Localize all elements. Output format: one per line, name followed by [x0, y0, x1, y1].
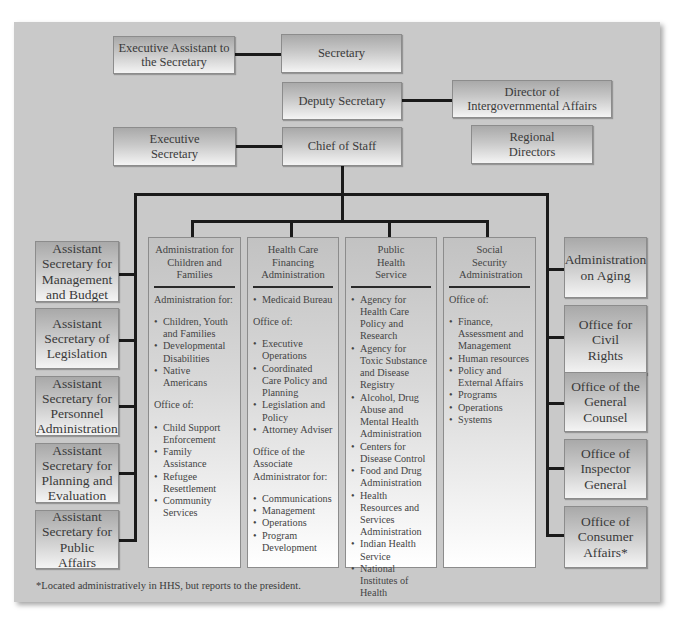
section-heading: Office of:	[154, 399, 235, 411]
list-item: Community Services	[154, 495, 235, 519]
executive-assistant-box: Executive Assistant to the Secretary	[113, 36, 235, 74]
connector-line	[191, 220, 194, 237]
list-item: Food and Drug Administration	[351, 465, 431, 489]
right-office-box: Office of the General Counsel	[564, 372, 647, 432]
list-item: Coordinated Care Policy and Planning	[253, 363, 333, 400]
list-item: Programs	[449, 389, 530, 401]
division-column-acf: Administration for Children and Families…	[148, 237, 241, 568]
list-item: Family Assistance	[154, 446, 235, 470]
list-item: Human resources	[449, 353, 530, 365]
connector-line	[235, 53, 281, 56]
list-item: Policy and External Affairs	[449, 365, 530, 389]
connector-line	[119, 405, 135, 408]
list-item: Management	[253, 505, 333, 517]
connector-line	[402, 99, 452, 102]
list-item: Alcohol, Drug Abuse and Mental Health Ad…	[351, 392, 431, 441]
item-list: Finance, Assessment and Management Human…	[449, 316, 530, 426]
connector-line	[546, 467, 564, 470]
connector-line	[546, 193, 549, 536]
connector-line	[134, 193, 137, 542]
connector-line	[134, 193, 549, 196]
connector-line	[236, 145, 282, 148]
deputy-secretary-box: Deputy Secretary	[282, 82, 402, 120]
list-item: Children, Youth and Families	[154, 316, 235, 340]
executive-secretary-box: Executive Secretary	[113, 127, 236, 166]
left-office-box: Assistant Secretary of Legislation	[35, 308, 119, 369]
item-list: Executive Operations Coordinated Care Po…	[253, 338, 333, 436]
connector-line	[486, 220, 489, 237]
division-title: Health Care Financing Administration	[253, 242, 333, 288]
left-office-box: Assistant Secretary for Personnel Admini…	[35, 376, 119, 436]
right-office-box: Office of Inspector General	[564, 439, 647, 499]
right-office-box: Office of Consumer Affairs*	[564, 506, 647, 568]
connector-line	[119, 273, 135, 276]
list-item: Operations	[253, 517, 333, 529]
item-list: Medicaid Bureau	[253, 294, 333, 306]
division-column-hcfa: Health Care Financing Administration Med…	[247, 237, 339, 568]
secretary-box: Secretary	[281, 34, 402, 73]
connector-line	[388, 220, 391, 237]
left-office-box: Assistant Secretary for Planning and Eva…	[35, 443, 119, 503]
list-item: Native Americans	[154, 365, 235, 389]
list-item: Systems	[449, 414, 530, 426]
connector-line	[191, 220, 489, 223]
list-item: Centers for Disease Control	[351, 441, 431, 465]
connector-line	[546, 402, 564, 405]
connector-line	[546, 268, 564, 271]
left-office-box: Assistant Secretary for Public Affairs	[35, 510, 119, 569]
division-title: Administration for Children and Families	[154, 242, 235, 288]
director-intergovernmental-box: Director of Intergovernmental Affairs	[452, 80, 612, 118]
list-item: Finance, Assessment and Management	[449, 316, 530, 353]
list-item: Program Development	[253, 530, 333, 554]
item-list: Child Support Enforcement Family Assista…	[154, 422, 235, 520]
item-list: Agency for Health Care Policy and Resear…	[351, 294, 431, 600]
left-office-box: Assistant Secretary for Management and B…	[35, 241, 119, 302]
regional-directors-box: Regional Directors	[471, 125, 593, 164]
connector-line	[546, 534, 564, 537]
list-item: Child Support Enforcement	[154, 422, 235, 446]
division-title: Social Security Administration	[449, 242, 530, 288]
list-item: National Institutes of Health	[351, 563, 431, 600]
list-item: Operations	[449, 402, 530, 414]
division-column-ssa: Social Security Administration Office of…	[443, 237, 536, 568]
connector-line	[119, 539, 135, 542]
right-office-box: Office for Civil Rights	[564, 305, 647, 375]
footnote: *Located administratively in HHS, but re…	[36, 580, 301, 591]
list-item: Indian Health Service	[351, 538, 431, 562]
list-item: Attorney Adviser	[253, 424, 333, 436]
list-item: Developmental Disabilities	[154, 340, 235, 364]
list-item: Medicaid Bureau	[253, 294, 333, 306]
list-item: Health Resources and Services Administra…	[351, 490, 431, 539]
division-column-phs: Public Health Service Agency for Health …	[345, 237, 437, 568]
item-list: Communications Management Operations Pro…	[253, 493, 333, 554]
division-title: Public Health Service	[351, 242, 431, 288]
item-list: Children, Youth and Families Development…	[154, 316, 235, 389]
connector-line	[119, 472, 135, 475]
section-heading: Office of:	[449, 294, 530, 306]
connector-line	[290, 220, 293, 237]
list-item: Refugee Resettlement	[154, 471, 235, 495]
connector-line	[546, 336, 564, 339]
chief-of-staff-box: Chief of Staff	[282, 127, 402, 166]
list-item: Legislation and Policy	[253, 399, 333, 423]
list-item: Agency for Health Care Policy and Resear…	[351, 294, 431, 343]
right-office-box: Administration on Aging	[564, 237, 647, 298]
list-item: Agency for Toxic Substance and Disease R…	[351, 343, 431, 392]
list-item: Communications	[253, 493, 333, 505]
section-heading: Administration for:	[154, 294, 235, 306]
section-heading: Office of the Associate Administrator fo…	[253, 446, 333, 483]
connector-line	[119, 339, 135, 342]
section-heading: Office of:	[253, 316, 333, 328]
list-item: Executive Operations	[253, 338, 333, 362]
